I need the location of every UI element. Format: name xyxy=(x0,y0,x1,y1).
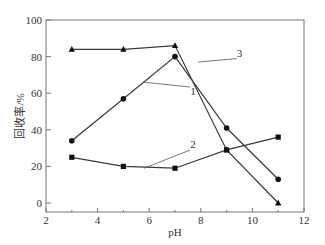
leader-line xyxy=(144,82,190,87)
leader-line xyxy=(198,59,236,62)
circle-marker xyxy=(224,125,230,131)
y-axis-label: 回收率/% xyxy=(13,93,26,138)
x-tick-label: 8 xyxy=(198,214,204,226)
circle-marker xyxy=(172,54,178,60)
x-tick-label: 6 xyxy=(146,214,152,226)
y-axis-ticks: 020406080100 xyxy=(26,14,52,209)
square-marker xyxy=(69,155,74,160)
circle-marker xyxy=(121,96,127,102)
circle-marker xyxy=(275,176,281,182)
x-axis-ticks: 24681012 xyxy=(43,208,309,226)
square-marker xyxy=(276,135,281,140)
chart: 020406080100 24681012 pH 回收率/% 123 xyxy=(0,0,325,245)
x-axis-label: pH xyxy=(168,226,182,238)
square-marker xyxy=(121,164,126,169)
y-tick-label: 60 xyxy=(31,87,43,99)
series-lines xyxy=(72,46,278,203)
y-tick-label: 0 xyxy=(37,197,43,209)
series-2-line xyxy=(72,137,278,168)
x-tick-label: 4 xyxy=(95,214,101,226)
series-markers xyxy=(69,42,282,205)
y-tick-label: 20 xyxy=(31,160,43,172)
series-label-3: 3 xyxy=(237,47,243,59)
y-tick-label: 80 xyxy=(31,51,43,63)
series-3-line xyxy=(72,46,278,203)
square-marker xyxy=(172,166,177,171)
y-tick-label: 100 xyxy=(26,14,43,26)
circle-marker xyxy=(69,138,75,144)
y-tick-label: 40 xyxy=(31,124,43,136)
x-tick-label: 2 xyxy=(43,214,49,226)
x-tick-label: 12 xyxy=(299,214,310,226)
triangle-marker xyxy=(172,42,178,48)
series-1-line xyxy=(72,57,278,180)
x-tick-label: 10 xyxy=(247,214,259,226)
series-label-1: 1 xyxy=(190,85,196,97)
series-label-2: 2 xyxy=(190,138,196,150)
